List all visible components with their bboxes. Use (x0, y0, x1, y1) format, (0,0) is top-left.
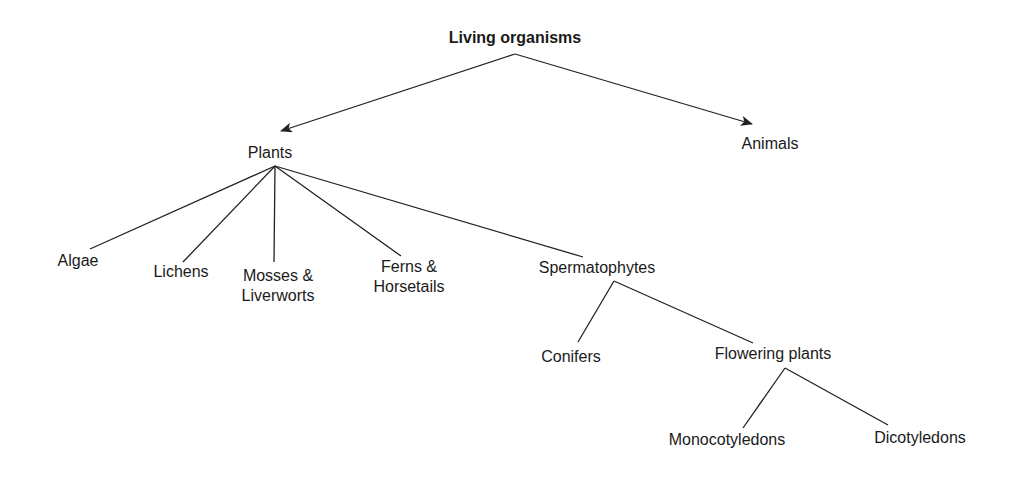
node-algae: Algae (58, 251, 99, 271)
node-mosses-line2: Liverworts (242, 286, 315, 306)
node-dicotyledons: Dicotyledons (874, 428, 966, 448)
node-monocotyledons: Monocotyledons (669, 430, 786, 450)
node-ferns-horsetails: Ferns & Horsetails (373, 257, 444, 297)
edge-plants-lichens (183, 166, 275, 262)
node-conifers: Conifers (541, 347, 601, 367)
node-flowering-plants: Flowering plants (715, 344, 832, 364)
node-mosses-liverworts: Mosses & Liverworts (242, 266, 315, 306)
edge-plants-ferns (275, 166, 401, 256)
edge-root-animals (515, 54, 752, 124)
node-ferns-line2: Horsetails (373, 277, 444, 297)
edge-plants-algae (90, 166, 275, 249)
node-mosses-line1: Mosses & (242, 266, 315, 286)
node-ferns-line1: Ferns & (373, 257, 444, 277)
node-lichens: Lichens (153, 262, 208, 282)
edge-sperm-flowering (614, 281, 753, 343)
edge-flowering-dicots (785, 368, 888, 425)
edge-root-plants (281, 54, 515, 131)
edge-plants-spermatophytes (275, 166, 583, 257)
edge-sperm-conifers (578, 281, 614, 342)
node-living-organisms: Living organisms (449, 28, 581, 48)
edge-layer (0, 0, 1016, 479)
node-animals: Animals (742, 134, 799, 154)
edge-plants-mosses (274, 166, 275, 262)
node-spermatophytes: Spermatophytes (539, 258, 656, 278)
node-plants: Plants (248, 143, 292, 163)
edge-flowering-monocots (743, 368, 785, 428)
